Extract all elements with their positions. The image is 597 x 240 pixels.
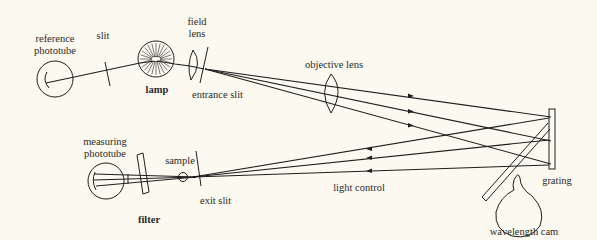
return-ray-3-arrow — [366, 169, 372, 174]
measuring-phototube-label-1: measuring — [83, 136, 127, 147]
lamp-label: lamp — [146, 84, 169, 95]
measuring-phototube — [88, 163, 124, 199]
measuring-rays — [94, 174, 196, 186]
reference-phototube-label-2: phototube — [34, 45, 76, 56]
lamp-filament — [151, 57, 161, 62]
measuring-phototube-label-2: phototube — [84, 148, 126, 159]
reference-phototube-cathode — [45, 72, 49, 88]
objective-lens-label: objective lens — [305, 59, 363, 70]
measuring-phototube-cathode — [93, 172, 96, 190]
reference-phototube-label-1: reference — [35, 33, 74, 44]
filter-label: filter — [138, 214, 160, 225]
reference-phototube-envelope — [37, 61, 73, 97]
field-lens — [189, 50, 198, 80]
field-lens-label-2: lens — [189, 28, 206, 39]
lamp — [138, 41, 174, 77]
entrance-slit-label: entrance slit — [192, 89, 243, 100]
exit-slit-label: exit slit — [200, 195, 231, 206]
objective-lens — [325, 74, 339, 113]
lamp-ray — [161, 55, 172, 58]
slit-label: slit — [97, 30, 110, 41]
spectrophotometer-diagram: reference phototube slit lamp field lens… — [0, 0, 597, 240]
return-rays — [193, 118, 549, 177]
forward-ray-2 — [205, 69, 551, 141]
forward-ray-1 — [205, 69, 551, 117]
forward-ray-3-arrow — [408, 123, 414, 128]
forward-rays — [205, 69, 551, 164]
grating-label: grating — [542, 175, 572, 186]
forward-ray-3 — [205, 69, 551, 164]
field-lens-label-1: field — [187, 16, 207, 27]
lamp-ray — [141, 55, 152, 58]
sample-label: sample — [165, 155, 195, 166]
entrance-slit — [200, 47, 208, 83]
light-control-label: light control — [333, 182, 385, 193]
wavelength-cam-label: wavelength cam — [490, 226, 559, 237]
wavelength-cam-arm — [482, 123, 550, 201]
slit — [105, 62, 110, 86]
exit-slit — [196, 151, 201, 186]
grating — [549, 109, 555, 169]
filter — [137, 153, 149, 194]
measuring-ray-1 — [94, 174, 196, 177]
cam-arm-end — [482, 197, 486, 201]
reference-phototube — [37, 61, 73, 97]
return-ray-1-arrow — [366, 147, 372, 152]
